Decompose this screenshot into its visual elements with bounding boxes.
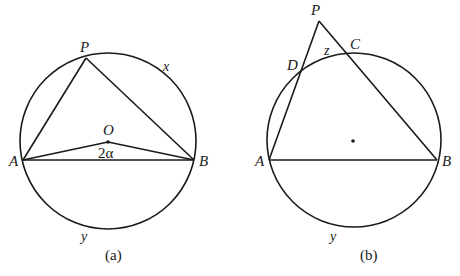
- figure-b: P z C D A B y (b): [254, 2, 451, 264]
- label-a-b: A: [254, 153, 265, 169]
- label-angle-2alpha: 2α: [98, 145, 114, 161]
- label-b-b: B: [442, 153, 451, 169]
- radius-ao: [23, 142, 108, 160]
- secant-pb-b: [319, 21, 437, 160]
- label-arc-y-a: y: [79, 229, 88, 244]
- label-arc-x: x: [162, 59, 170, 74]
- label-arc-z: z: [323, 43, 330, 58]
- label-p-b: P: [310, 2, 320, 18]
- caption-b: (b): [360, 247, 378, 264]
- label-o: O: [103, 122, 114, 138]
- caption-a: (a): [105, 247, 122, 264]
- center-dot-b: [351, 139, 355, 143]
- center-point-o: [106, 140, 110, 144]
- radius-ob: [108, 142, 194, 160]
- label-p-a: P: [79, 39, 89, 55]
- label-a-a: A: [8, 153, 19, 169]
- secant-ap-b: [269, 21, 319, 160]
- label-c: C: [350, 36, 361, 52]
- label-d: D: [286, 57, 298, 73]
- label-arc-y-b: y: [328, 229, 337, 244]
- geometry-diagram: P x O 2α A B y (a) P z C D A B y (b): [0, 0, 460, 276]
- chord-ap-a: [23, 58, 86, 160]
- figure-a: P x O 2α A B y (a): [8, 39, 208, 264]
- label-b-a: B: [199, 153, 208, 169]
